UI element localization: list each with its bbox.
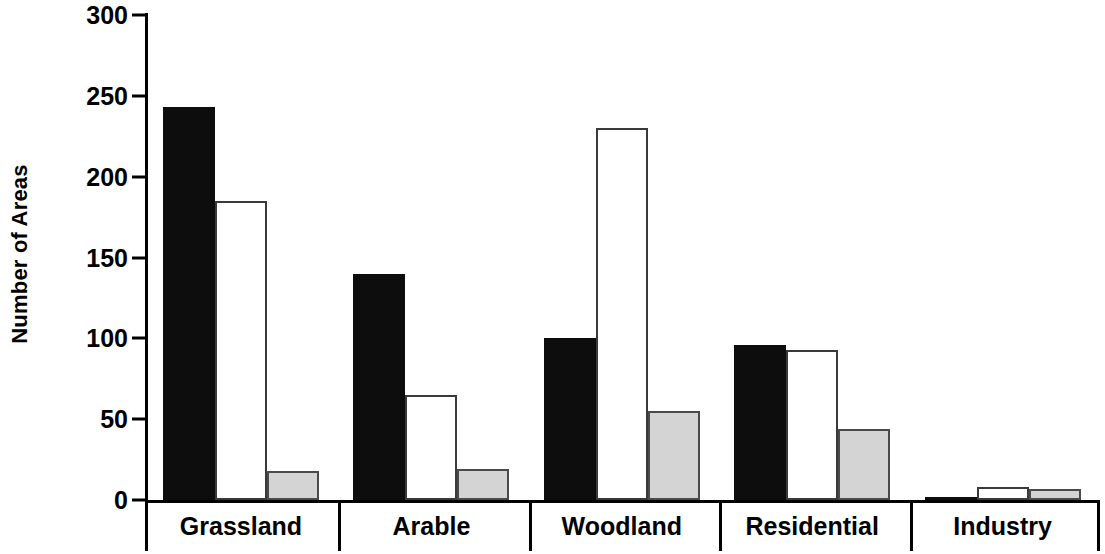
x-axis-category-label: Woodland — [562, 512, 682, 541]
category-separator-tick — [145, 503, 148, 551]
category-separator-tick — [1097, 503, 1100, 551]
category-separator-tick — [719, 503, 722, 551]
bar — [977, 487, 1029, 500]
x-axis-category-label: Grassland — [180, 512, 302, 541]
x-axis-category-label: Residential — [746, 512, 879, 541]
y-axis-tick-mark — [132, 94, 145, 97]
y-axis-tick-mark — [132, 256, 145, 259]
y-axis-tick-mark — [132, 499, 145, 502]
bar — [925, 497, 977, 500]
x-axis-category-label: Industry — [953, 512, 1052, 541]
y-axis-tick-label: 250 — [36, 83, 128, 108]
bar — [786, 350, 838, 500]
bar — [457, 469, 509, 500]
bar — [1029, 489, 1081, 500]
y-axis-tick-label: 300 — [36, 3, 128, 28]
bar — [353, 274, 405, 500]
y-axis-tick-mark — [132, 175, 145, 178]
category-separator-tick — [529, 503, 532, 551]
y-axis-line — [145, 13, 148, 503]
y-axis-tick-label: 50 — [36, 407, 128, 432]
bar — [734, 345, 786, 500]
bar — [405, 395, 457, 500]
y-axis-tick-mark — [132, 337, 145, 340]
y-axis-tick-label: 150 — [36, 245, 128, 270]
category-separator-tick — [910, 503, 913, 551]
x-axis-category-label: Arable — [392, 512, 470, 541]
y-axis-tick-label: 200 — [36, 164, 128, 189]
chart-figure: Number of Areas 050100150200250300 Grass… — [0, 0, 1105, 554]
x-axis-line — [145, 500, 1100, 503]
plot-area: 050100150200250300 GrasslandArableWoodla… — [0, 0, 1105, 554]
bar — [267, 471, 319, 500]
bar — [648, 411, 700, 500]
category-separator-tick — [338, 503, 341, 551]
y-axis-tick-mark — [132, 418, 145, 421]
y-axis-tick-mark — [132, 14, 145, 17]
bar — [215, 201, 267, 500]
y-axis-tick-label: 100 — [36, 326, 128, 351]
bar — [544, 338, 596, 500]
bar — [163, 107, 215, 500]
bar — [596, 128, 648, 500]
y-axis-tick-label: 0 — [36, 488, 128, 513]
bar — [838, 429, 890, 500]
